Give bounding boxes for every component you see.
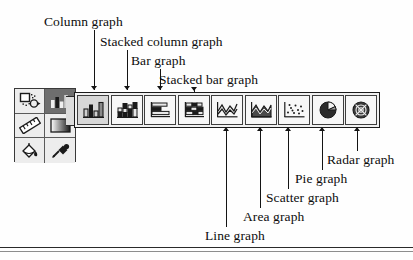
- callout-label-radar-graph: Radar graph: [327, 152, 394, 167]
- measure-tool-button[interactable]: [15, 114, 45, 139]
- paint-bucket-tool-button[interactable]: [15, 138, 45, 163]
- selection-tool-button[interactable]: [15, 89, 45, 114]
- stacked-bar-graph-tool-button[interactable]: [178, 95, 210, 125]
- leader-line-column-graph: [94, 30, 95, 90]
- area-graph-icon: [249, 100, 273, 120]
- callout-label-stacked-bar-graph: Stacked bar graph: [159, 72, 258, 87]
- bar-graph-icon: [148, 100, 172, 120]
- pie-graph-icon: [317, 100, 339, 120]
- leader-arrow-stacked-column-graph: [124, 86, 130, 90]
- page-divider-rule: [0, 247, 413, 248]
- line-graph-icon: [215, 100, 239, 120]
- eyedropper-icon: [50, 142, 71, 159]
- leader-line-stacked-column-graph: [127, 50, 128, 90]
- area-graph-tool-button[interactable]: [245, 95, 277, 125]
- callout-label-area-graph: Area graph: [243, 209, 304, 224]
- graph-tool-flyout-toolbar[interactable]: [74, 92, 380, 128]
- ruler-icon: [19, 117, 41, 134]
- callout-label-bar-graph: Bar graph: [131, 53, 186, 68]
- line-graph-tool-button[interactable]: [211, 95, 243, 125]
- pie-graph-tool-button[interactable]: [312, 95, 344, 125]
- stacked-column-graph-icon: [115, 100, 139, 120]
- callout-label-pie-graph: Pie graph: [295, 171, 347, 186]
- callout-label-column-graph: Column graph: [44, 14, 123, 29]
- page-divider-rule-secondary: [0, 251, 413, 252]
- paint-bucket-icon: [19, 142, 40, 159]
- shape-select-icon: [19, 92, 41, 109]
- leader-line-scatter-graph: [288, 131, 289, 189]
- scatter-graph-icon: [282, 100, 306, 120]
- palette-row: [15, 138, 75, 163]
- leader-line-area-graph: [260, 131, 261, 208]
- leader-line-radar-graph: [357, 131, 358, 151]
- radar-graph-icon: [350, 100, 372, 120]
- callout-label-line-graph: Line graph: [205, 228, 265, 243]
- leader-arrow-stacked-bar-graph: [191, 87, 197, 91]
- scatter-graph-tool-button[interactable]: [278, 95, 310, 125]
- column-graph-tool-button[interactable]: [77, 95, 109, 125]
- eyedropper-tool-button[interactable]: [45, 138, 75, 163]
- leader-arrow-column-graph: [91, 86, 97, 90]
- leader-line-pie-graph: [322, 131, 323, 170]
- column-graph-icon: [81, 100, 105, 120]
- bar-graph-tool-button[interactable]: [144, 95, 176, 125]
- stacked-bar-graph-icon: [182, 100, 206, 120]
- leader-line-line-graph: [226, 131, 227, 227]
- stacked-column-graph-tool-button[interactable]: [111, 95, 143, 125]
- callout-label-scatter-graph: Scatter graph: [266, 190, 339, 205]
- radar-graph-tool-button[interactable]: [345, 95, 377, 125]
- graph-tool-callout-figure: Column graph Stacked column graph Bar gr…: [0, 0, 413, 260]
- callout-label-stacked-column-graph: Stacked column graph: [100, 34, 223, 49]
